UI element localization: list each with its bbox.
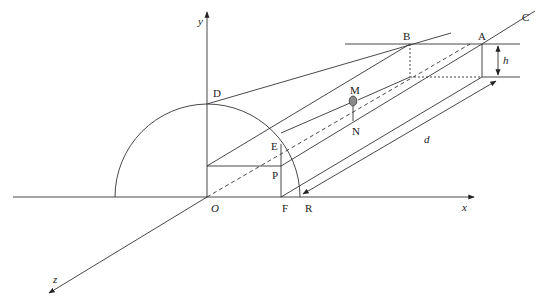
point-label-c: C: [522, 11, 529, 23]
line-f-to-a-base: [281, 77, 482, 197]
z-axis: [49, 197, 207, 293]
point-label-e: E: [271, 140, 278, 152]
point-label-b: B: [403, 30, 410, 42]
point-label-m: M: [350, 84, 360, 96]
point-label-a: A: [478, 30, 486, 42]
origin-label: O: [211, 202, 219, 214]
z-axis-label: z: [52, 273, 58, 285]
dimension-label-d: d: [424, 133, 430, 145]
point-label-f: F: [282, 202, 288, 214]
ball-m: [349, 96, 357, 106]
diagram-canvas: y x z O D B A C M N E P F R h d: [0, 0, 540, 303]
point-label-r: R: [305, 202, 313, 214]
d-dimension-arrow: [303, 81, 496, 194]
point-label-d: D: [213, 87, 221, 99]
point-label-p: P: [272, 169, 278, 181]
line-e-to-m: [281, 103, 350, 133]
point-label-n: N: [352, 125, 360, 137]
line-o-to-c-dashed: [207, 44, 470, 197]
x-axis-label: x: [461, 201, 467, 213]
dimension-label-h: h: [503, 54, 509, 66]
y-axis-label: y: [197, 15, 203, 27]
line-m-to-b-base: [358, 77, 410, 100]
line-to-b-diagonal: [207, 44, 410, 166]
